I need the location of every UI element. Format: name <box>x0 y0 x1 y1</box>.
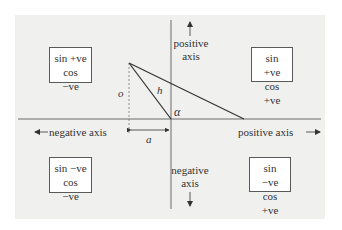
horizontal-negative-axis-label: negative axis <box>49 126 107 139</box>
quadrant-cos-label: cos +ve <box>256 79 288 107</box>
quadrant-box-bottom-right: sin −ve cos +ve <box>249 157 291 192</box>
quadrant-cos-label: cos +ve <box>254 189 286 217</box>
quadrant-sin-label: sin −ve <box>254 161 286 189</box>
quadrant-sin-label: sin +ve <box>256 51 288 79</box>
extended-line <box>129 63 244 119</box>
quadrant-sin-label: sin +ve <box>54 51 87 65</box>
adjacent-label: a <box>146 133 152 146</box>
opposite-label: o <box>118 87 124 100</box>
vertical-positive-axis-label: positive axis <box>172 37 210 63</box>
hypotenuse-label: h <box>157 84 163 97</box>
axis-label-line: positive <box>172 37 210 50</box>
axis-label-line: negative <box>170 164 210 177</box>
quadrant-box-top-right: sin +ve cos +ve <box>251 47 293 82</box>
quadrant-sin-label: sin −ve <box>54 161 87 175</box>
hypotenuse-line <box>129 63 171 119</box>
axis-label-line: axis <box>172 50 210 63</box>
quadrant-box-top-left: sin +ve cos −ve <box>49 47 92 83</box>
angle-alpha-label: α <box>174 106 180 119</box>
quadrant-cos-label: cos −ve <box>54 175 87 203</box>
quadrant-diagram <box>0 0 342 230</box>
quadrant-cos-label: cos −ve <box>54 65 87 93</box>
horizontal-positive-axis-label: positive axis <box>238 126 293 139</box>
quadrant-box-bottom-left: sin −ve cos −ve <box>49 157 92 193</box>
vertical-negative-axis-label: negative axis <box>170 164 210 190</box>
axis-label-line: axis <box>170 177 210 190</box>
